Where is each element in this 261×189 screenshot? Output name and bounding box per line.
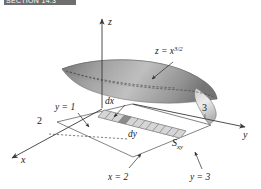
surface-front-rim xyxy=(62,60,217,103)
y-tick-label-3: 3 xyxy=(202,102,207,113)
x-tick-label-2: 2 xyxy=(37,115,42,126)
boundary-x-equals-2-label: x = 2 xyxy=(107,172,128,182)
z-axis-label: z xyxy=(107,16,112,27)
figure-container: SECTION 14.3 xyxy=(0,0,261,189)
plane-y-equals-1-label: y = 1 xyxy=(54,102,75,112)
y-axis-label: y xyxy=(242,129,248,140)
region-label-subscript: xy xyxy=(176,143,184,150)
boundary-y-equals-3-label: y = 3 xyxy=(189,172,210,182)
surface-equation-label: z = x3/2 xyxy=(154,45,183,56)
calculus-3d-diagram: z y x 2 3 z = x3/2 y = 1 dx dy Sxy x = 2… xyxy=(0,0,261,189)
differential-dy-label: dy xyxy=(128,129,138,139)
surface-equation-exponent: 3/2 xyxy=(173,45,183,52)
differential-dx-label: dx xyxy=(105,96,115,106)
leader-y-equals-3 xyxy=(195,152,202,169)
surface-equation-base: z = x xyxy=(154,46,175,56)
x-axis-label: x xyxy=(20,154,26,165)
